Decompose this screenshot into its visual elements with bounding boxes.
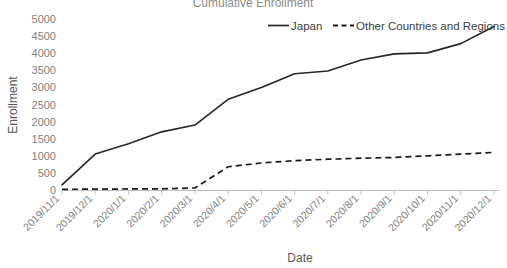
x-axis-tick-label: 2019/12/1 [53, 192, 95, 234]
y-axis-tick-label: 4000 [32, 47, 56, 59]
x-axis-tick-marks [62, 191, 494, 195]
x-axis-tick-label: 2020/4/1 [190, 192, 227, 229]
x-axis-title: Date [287, 251, 313, 265]
x-axis-tick-label: 2020/3/1 [157, 192, 194, 229]
line-chart: Cumulative Enrollment 500045004000350030… [0, 0, 507, 268]
x-axis-tick-label: 2020/2/1 [124, 192, 161, 229]
x-axis-tick-label: 2020/12/1 [452, 192, 494, 234]
chart-legend: Japan Other Countries and Regions [268, 20, 505, 32]
y-axis-tick-label: 500 [38, 167, 56, 179]
chart-container: Cumulative Enrollment 500045004000350030… [0, 0, 507, 268]
y-axis-title: Enrollment [6, 76, 20, 134]
y-axis-tick-label: 2000 [32, 116, 56, 128]
x-axis-tick-label: 2020/1/1 [90, 192, 127, 229]
chart-title-text: Cumulative Enrollment [193, 0, 314, 10]
x-axis-tick-labels: 2019/11/12019/12/12020/1/12020/2/12020/3… [20, 192, 493, 234]
x-axis-tick-label: 2020/8/1 [323, 192, 360, 229]
y-axis-tick-label: 2500 [32, 99, 56, 111]
y-axis-tick-labels: 5000450040003500300025002000150010005000 [32, 13, 56, 196]
x-axis-tick-label: 2020/5/1 [223, 192, 260, 229]
chart-title: Cumulative Enrollment [193, 0, 314, 10]
y-axis-tick-label: 3500 [32, 64, 56, 76]
series-line-other-countries-and-regions [62, 152, 494, 189]
y-axis-tick-label: 4500 [32, 30, 56, 42]
y-axis-tick-label: 3000 [32, 81, 56, 93]
y-axis-tick-label: 1500 [32, 133, 56, 145]
x-axis-tick-label: 2020/6/1 [257, 192, 294, 229]
x-axis-tick-label: 2020/7/1 [290, 192, 327, 229]
legend-label-other-countries-and-regions: Other Countries and Regions [356, 20, 505, 32]
y-axis-tick-label: 5000 [32, 13, 56, 25]
y-axis-tick-label: 1000 [32, 150, 56, 162]
legend-label-japan: Japan [291, 20, 322, 32]
